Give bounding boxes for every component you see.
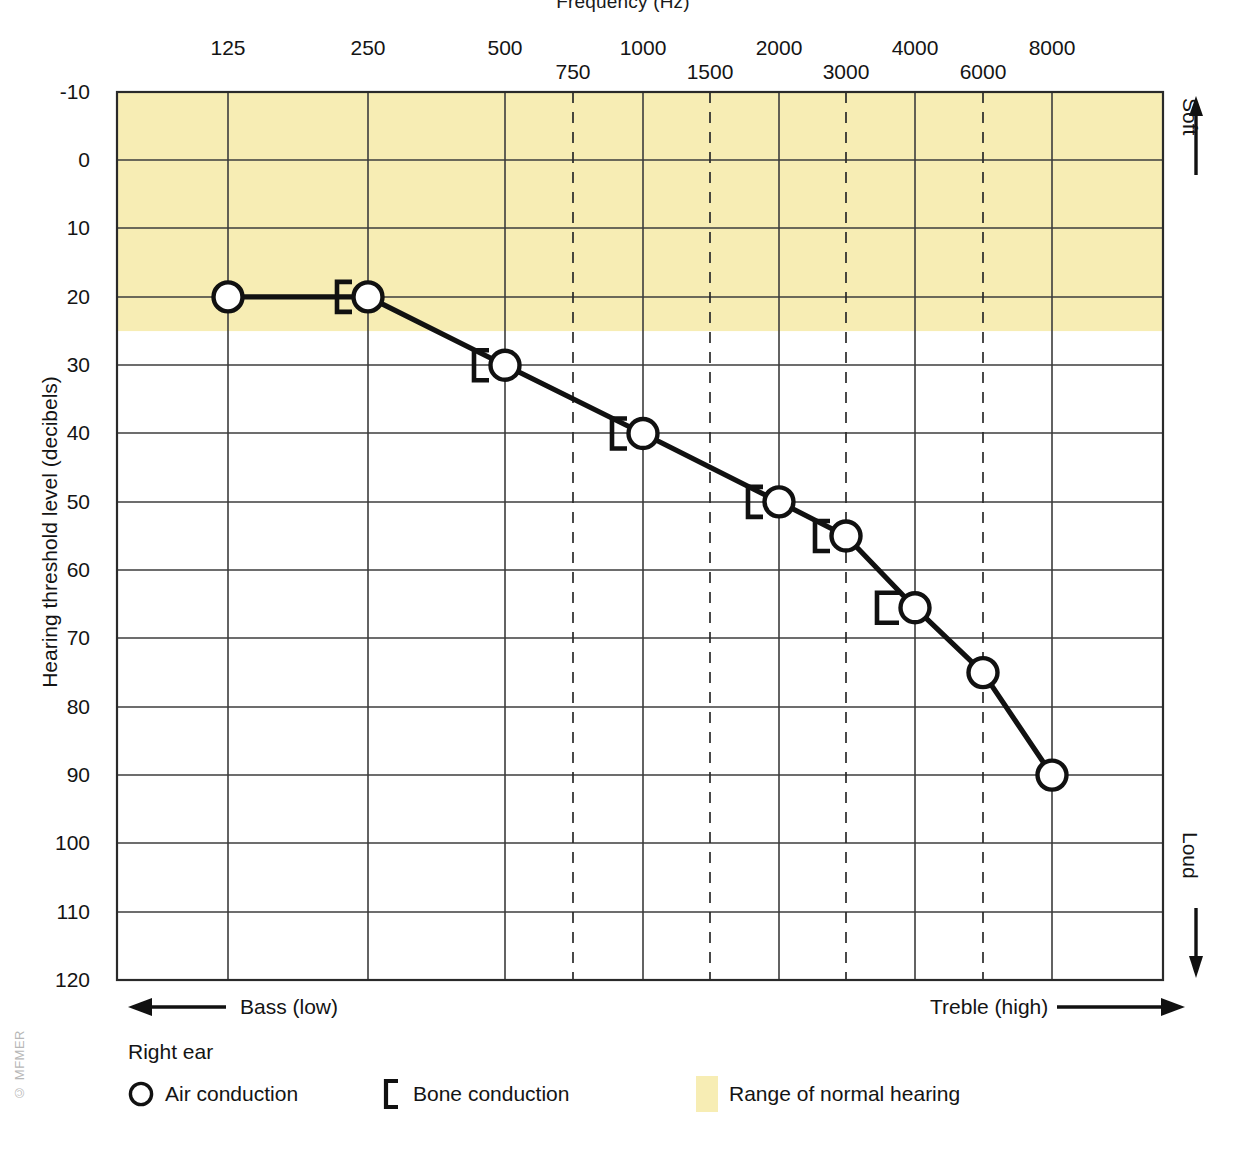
x-tick-label-8000: 8000 xyxy=(1029,36,1076,60)
bracket-icon xyxy=(380,1077,402,1111)
x-tick-label-1000: 1000 xyxy=(620,36,667,60)
legend: Right ear Air conduction Bone conduction… xyxy=(128,1040,1128,1112)
loud-arrow-icon xyxy=(1189,908,1203,978)
y-tick-label: -10 xyxy=(60,80,90,104)
legend-item-normal-range: Range of normal hearing xyxy=(696,1076,960,1112)
y-tick-label: 70 xyxy=(67,626,90,650)
x-tick-label-6000: 6000 xyxy=(960,60,1007,84)
data-point-4000 xyxy=(901,593,930,622)
data-point-250 xyxy=(354,282,383,311)
x-tick-label-2000: 2000 xyxy=(756,36,803,60)
y-tick-label: 30 xyxy=(67,353,90,377)
legend-label-bone-conduction: Bone conduction xyxy=(413,1082,569,1106)
data-point-3000 xyxy=(832,522,861,551)
data-point-500 xyxy=(491,351,520,380)
legend-item-air-conduction: Air conduction xyxy=(128,1079,380,1109)
data-point-1000 xyxy=(629,419,658,448)
air-conduction-markers xyxy=(214,282,1067,789)
treble-label: Treble (high) xyxy=(930,995,1048,1019)
x-tick-label-500: 500 xyxy=(487,36,522,60)
treble-arrow-icon xyxy=(1057,998,1185,1016)
copyright-watermark: © MFMER xyxy=(12,1030,122,1100)
bass-arrow-icon xyxy=(128,998,226,1016)
x-tick-label-750: 750 xyxy=(555,60,590,84)
circle-icon xyxy=(128,1079,154,1109)
y-tick-label: 40 xyxy=(67,421,90,445)
audiogram-plot xyxy=(0,0,1246,1151)
x-tick-label-3000: 3000 xyxy=(823,60,870,84)
bone-point-4000 xyxy=(877,593,899,623)
y-tick-label: 80 xyxy=(67,695,90,719)
y-tick-label: 20 xyxy=(67,285,90,309)
x-tick-label-4000: 4000 xyxy=(892,36,939,60)
legend-item-bone-conduction: Bone conduction xyxy=(380,1077,696,1111)
y-tick-label: 90 xyxy=(67,763,90,787)
data-point-8000 xyxy=(1038,761,1067,790)
data-point-125 xyxy=(214,282,243,311)
loud-annotation: Loud xyxy=(1178,832,1238,879)
loud-label: Loud xyxy=(1178,832,1202,879)
y-tick-label: 110 xyxy=(57,900,90,924)
legend-label-normal-range: Range of normal hearing xyxy=(729,1082,960,1106)
bone-conduction-markers xyxy=(337,282,899,623)
y-tick-label: 120 xyxy=(55,968,90,992)
x-tick-label-1500: 1500 xyxy=(687,60,734,84)
bass-label: Bass (low) xyxy=(240,995,338,1019)
x-tick-label-250: 250 xyxy=(350,36,385,60)
legend-label-air-conduction: Air conduction xyxy=(165,1082,298,1106)
legend-row: Air conduction Bone conduction Range of … xyxy=(128,1076,1128,1112)
soft-label: Soft xyxy=(1178,98,1202,135)
data-point-6000 xyxy=(969,658,998,687)
color-swatch-icon xyxy=(696,1076,718,1112)
y-tick-label: 50 xyxy=(67,490,90,514)
air-conduction-line xyxy=(228,297,1052,775)
y-axis-title: Hearing threshold level (decibels) xyxy=(38,182,62,882)
y-tick-label: 60 xyxy=(67,558,90,582)
soft-annotation: Soft xyxy=(1178,98,1238,135)
x-tick-label-125: 125 xyxy=(210,36,245,60)
y-tick-label: 10 xyxy=(67,216,90,240)
legend-title: Right ear xyxy=(128,1040,1128,1064)
data-point-2000 xyxy=(765,487,794,516)
y-tick-label: 0 xyxy=(78,148,90,172)
